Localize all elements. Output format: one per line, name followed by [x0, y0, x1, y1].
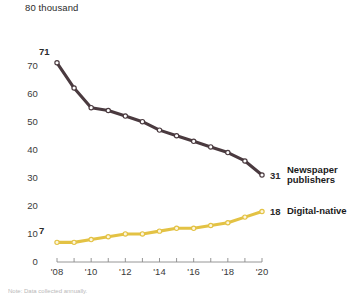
series-marker: [106, 235, 110, 239]
series-marker: [209, 145, 213, 149]
series-marker: [192, 226, 196, 230]
series-label-1: Newspaperpublishers: [287, 165, 338, 186]
series-line: [57, 211, 262, 242]
series-marker: [174, 134, 178, 138]
series-marker: [226, 221, 230, 225]
series-marker: [157, 229, 161, 233]
series-marker: [226, 150, 230, 154]
x-tick-label-2020: '20: [256, 266, 269, 277]
y-tick-label-10: 10: [14, 228, 38, 239]
series-marker: [140, 120, 144, 124]
x-tick-label-2014: '14: [153, 266, 166, 277]
y-tick-label-60: 60: [14, 88, 38, 99]
series-end-value-2: 18: [270, 206, 281, 217]
y-tick-label-30: 30: [14, 172, 38, 183]
y-tick-label-40: 40: [14, 144, 38, 155]
series-marker: [72, 86, 76, 90]
y-tick-label-20: 20: [14, 200, 38, 211]
y-tick-label-0: 0: [14, 256, 38, 267]
x-tick-label-2012: '12: [119, 266, 132, 277]
series-marker: [260, 209, 264, 213]
series-start-value-1: 71: [39, 46, 50, 57]
series-marker: [89, 237, 93, 241]
series-start-value-2: 7: [39, 225, 44, 236]
series-marker: [55, 61, 59, 65]
series-1: [55, 61, 264, 178]
series-marker: [192, 139, 196, 143]
series-end-value-1: 31: [270, 170, 281, 181]
series-marker: [123, 232, 127, 236]
series-label-line: Digital-native: [287, 206, 347, 217]
series-2: [55, 209, 264, 244]
series-marker: [260, 173, 264, 177]
y-tick-label-50: 50: [14, 116, 38, 127]
series-marker: [72, 240, 76, 244]
series-line: [57, 63, 262, 175]
y-tick-label-70: 70: [14, 60, 38, 71]
x-tick-label-2018: '18: [221, 266, 234, 277]
chart-footnote: Note: Data collected annually.: [8, 288, 356, 295]
y-axis-unit-label: 80 thousand: [25, 2, 78, 13]
series-label-2: Digital-native: [287, 206, 347, 217]
series-marker: [157, 128, 161, 132]
x-tick-label-2010: '10: [85, 266, 98, 277]
series-marker: [209, 223, 213, 227]
x-tick-label-2008: '08: [51, 266, 64, 277]
series-marker: [89, 106, 93, 110]
series-marker: [106, 108, 110, 112]
series-marker: [55, 240, 59, 244]
series-marker: [140, 232, 144, 236]
series-marker: [174, 226, 178, 230]
x-tick-label-2016: '16: [187, 266, 200, 277]
series-marker: [123, 114, 127, 118]
series-marker: [243, 215, 247, 219]
series-marker: [243, 159, 247, 163]
series-label-line: publishers: [287, 175, 338, 186]
